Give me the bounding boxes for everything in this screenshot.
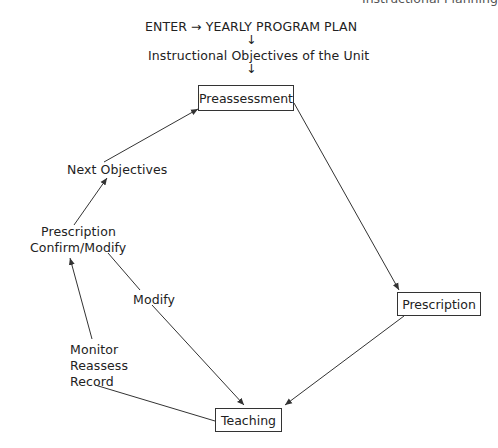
flow-arrows xyxy=(0,0,498,448)
